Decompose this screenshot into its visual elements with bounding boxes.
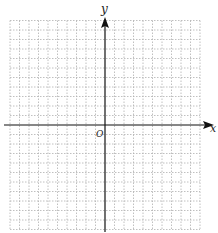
origin-label: O bbox=[96, 129, 104, 139]
y-axis-label: y bbox=[100, 2, 108, 16]
x-axis bbox=[4, 121, 214, 129]
coordinate-plane: x y O bbox=[0, 0, 218, 233]
x-axis-label: x bbox=[210, 122, 217, 135]
